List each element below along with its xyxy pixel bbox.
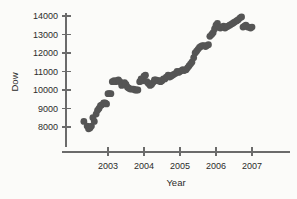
- y-tick-label: 8000: [38, 122, 58, 132]
- data-point: [142, 72, 149, 79]
- x-axis-ticks: 20032004200520062007: [98, 147, 262, 171]
- data-point: [134, 87, 141, 94]
- data-point: [205, 41, 212, 48]
- x-tick-label: 2003: [98, 161, 118, 171]
- data-point: [103, 100, 110, 107]
- data-point: [91, 118, 98, 125]
- x-axis-title: Year: [166, 177, 185, 188]
- y-axis-title: Dow: [9, 72, 20, 91]
- y-axis-ticks: 800090001000011000120001300014000: [33, 11, 71, 132]
- chart-screenshot: 800090001000011000120001300014000 200320…: [0, 0, 297, 199]
- y-tick-label: 13000: [33, 30, 58, 40]
- y-tick-label: 10000: [33, 85, 58, 95]
- y-tick-label: 9000: [38, 104, 58, 114]
- data-point: [249, 24, 256, 31]
- data-point: [238, 14, 245, 21]
- x-tick-label: 2005: [170, 161, 190, 171]
- y-tick-label: 14000: [33, 11, 58, 21]
- y-tick-label: 11000: [34, 67, 58, 77]
- x-tick-label: 2004: [134, 161, 154, 171]
- x-tick-label: 2006: [206, 161, 226, 171]
- scatter-plot: 800090001000011000120001300014000 200320…: [0, 0, 297, 199]
- y-tick-label: 12000: [33, 48, 58, 58]
- data-point: [107, 90, 114, 97]
- x-tick-label: 2007: [242, 161, 262, 171]
- data-points: [80, 14, 255, 133]
